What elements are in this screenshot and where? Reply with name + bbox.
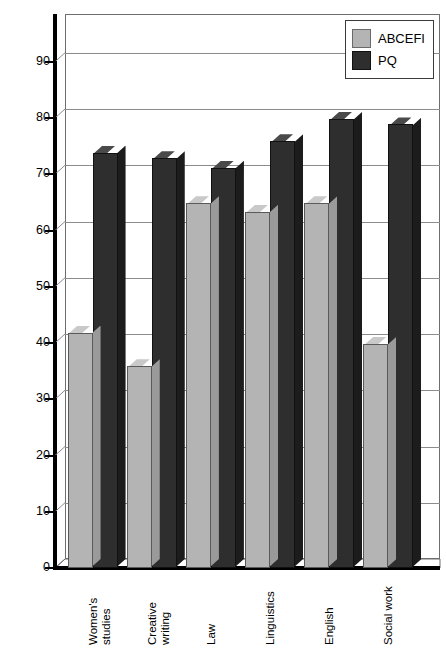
x-label-2: Law: [205, 624, 218, 645]
x-label-4: English: [323, 607, 336, 645]
bar-front-face: [363, 344, 388, 568]
y-tick-label-50: 50: [10, 280, 50, 292]
legend-label-pq: PQ: [378, 53, 397, 68]
bar-front-face: [68, 333, 93, 568]
bar-front-face: [186, 203, 211, 568]
bar-0-4: [304, 205, 327, 568]
bar-0-2: [186, 205, 209, 568]
legend: ABCEFI PQ: [345, 20, 434, 79]
legend-item-0: ABCEFI: [352, 29, 425, 48]
bar-0-3: [245, 214, 268, 568]
bar-0-5: [363, 346, 386, 568]
y-tick-label-40: 40: [10, 336, 50, 348]
y-tick-label-90: 90: [10, 55, 50, 67]
y-tick-label-60: 60: [10, 224, 50, 236]
bar-front-face: [304, 203, 329, 568]
x-label-0: Women's studies: [87, 598, 112, 645]
x-label-1: Creative writing: [146, 602, 171, 645]
gridline-80: [65, 109, 440, 110]
y-tick-label-30: 30: [10, 392, 50, 404]
legend-swatch-abcefi: [352, 29, 371, 48]
y-tick-label-70: 70: [10, 167, 50, 179]
bar-front-face: [245, 212, 270, 568]
x-label-3: Linguistics: [264, 591, 277, 645]
y-axis: [53, 14, 57, 569]
legend-item-1: PQ: [352, 51, 425, 70]
y-tick-label-20: 20: [10, 449, 50, 461]
y-tick-label-0: 0: [10, 561, 50, 573]
bar-0-0: [68, 335, 91, 568]
legend-swatch-pq: [352, 51, 371, 70]
bar-0-1: [127, 368, 150, 568]
x-label-5: Social work: [382, 586, 395, 645]
y-tick-label-80: 80: [10, 111, 50, 123]
bar-front-face: [127, 366, 152, 568]
bar-chart: 0102030405060708090 Women's studiesCreat…: [0, 0, 446, 651]
y-tick-label-10: 10: [10, 505, 50, 517]
legend-label-abcefi: ABCEFI: [378, 31, 425, 46]
